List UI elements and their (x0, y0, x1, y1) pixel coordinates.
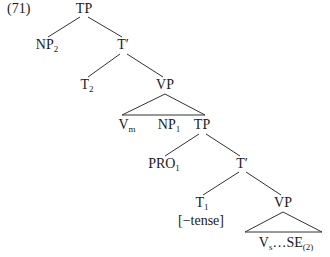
node-label: V (118, 117, 128, 132)
node-pro1: PRO1 (148, 157, 180, 171)
node-label: V (259, 235, 269, 250)
example-number: (71) (7, 2, 30, 16)
node-t2: T2 (80, 78, 93, 92)
node-subscript: (2) (303, 242, 314, 252)
node-vs-se: Vs…SE(2) (259, 236, 313, 250)
syntax-tree-diagram: (71) TP NP2 T′ T2 VP Vm NP1 TP PRO1 T′ T… (0, 0, 330, 257)
node-label: …SE (272, 235, 302, 250)
node-label: T (80, 77, 89, 92)
node-tp-lower: TP (194, 118, 210, 132)
node-tbar-lower: T′ (236, 157, 248, 171)
node-vm: Vm (118, 118, 135, 132)
node-label: NP (158, 117, 176, 132)
node-subscript: 1 (204, 202, 209, 212)
node-tbar-upper: T′ (117, 38, 129, 52)
node-t1: T1 (195, 196, 208, 210)
node-label: VP (274, 195, 292, 210)
node-label: VP (156, 77, 174, 92)
node-label: T′ (117, 37, 129, 52)
node-vp-lower: VP (274, 196, 292, 210)
node-label: T (195, 195, 204, 210)
node-np2: NP2 (36, 38, 58, 52)
node-subscript: 1 (175, 163, 180, 173)
node-label: TP (76, 1, 92, 16)
node-label: PRO (148, 156, 175, 171)
node-vp-upper: VP (156, 78, 174, 92)
node-label: NP (36, 37, 54, 52)
node-subscript: m (129, 124, 136, 134)
node-label: TP (194, 117, 210, 132)
node-label: T′ (236, 156, 248, 171)
node-np1: NP1 (158, 118, 180, 132)
node-subscript: 2 (54, 44, 59, 54)
node-tp-root: TP (76, 2, 92, 16)
node-subscript: 2 (89, 84, 94, 94)
node-subscript: 1 (176, 124, 181, 134)
node-t1-feature: [−tense] (178, 214, 224, 228)
